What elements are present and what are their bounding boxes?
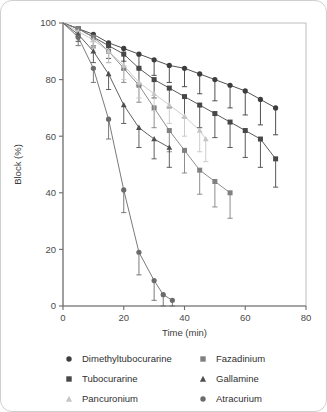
data-point-marker	[136, 250, 141, 255]
y-axis-title: Block (%)	[12, 144, 23, 185]
series-atracurium	[63, 23, 175, 306]
data-point-marker	[182, 148, 187, 153]
legend-item-label: Fazadinium	[216, 354, 265, 364]
x-tick-label: 0	[60, 312, 65, 323]
data-point-marker	[76, 35, 81, 40]
y-tick-label: 100	[40, 17, 56, 28]
data-point-marker	[152, 77, 157, 82]
chart-plot-area: 020406080100020406080Time (min)Block (%)	[1, 1, 327, 346]
series-pancuronium	[63, 23, 209, 162]
data-point-marker	[197, 103, 202, 108]
data-point-marker	[197, 71, 202, 76]
y-tick-label: 40	[45, 187, 56, 198]
legend-item-label: Gallamine	[216, 374, 259, 384]
data-point-marker	[243, 88, 248, 93]
legend-column-left: DimethyltubocurarineTubocurarinePancuron…	[63, 349, 172, 409]
data-point-marker	[152, 278, 157, 283]
legend-item-label: Dimethyltubocurarine	[82, 354, 172, 364]
series-fazadinium	[63, 23, 233, 218]
square-marker-icon	[197, 353, 209, 365]
y-tick-label: 80	[45, 74, 56, 85]
data-point-marker	[182, 94, 187, 99]
data-point-marker	[136, 52, 141, 57]
data-point-marker	[273, 105, 278, 110]
data-point-marker	[170, 298, 175, 303]
data-point-marker	[197, 168, 202, 173]
data-point-marker	[151, 136, 157, 141]
data-point-marker	[212, 111, 217, 116]
data-point-marker	[121, 187, 126, 192]
data-point-marker	[258, 137, 263, 142]
data-point-marker	[136, 66, 141, 71]
data-point-marker	[258, 97, 263, 102]
circle-marker-icon	[197, 393, 209, 405]
series-line	[63, 23, 172, 300]
legend-item-fazadinium[interactable]: Fazadinium	[197, 349, 265, 369]
data-point-marker	[228, 120, 233, 125]
chart-svg: 020406080100020406080Time (min)Block (%)	[1, 1, 327, 346]
x-axis-title: Time (min)	[162, 327, 207, 338]
legend-item-gallamine[interactable]: Gallamine	[197, 369, 265, 389]
figure-panel: 020406080100020406080Time (min)Block (%)…	[0, 0, 327, 412]
data-point-marker	[167, 63, 172, 68]
triangle-marker-icon	[197, 373, 209, 385]
data-point-marker	[182, 113, 188, 118]
y-tick-label: 60	[45, 131, 56, 142]
data-point-marker	[212, 179, 217, 184]
legend-item-atracurium[interactable]: Atracurium	[197, 389, 265, 409]
data-point-marker	[166, 144, 172, 149]
y-tick-label: 0	[51, 300, 56, 311]
data-point-marker	[106, 117, 111, 122]
legend-item-label: Tubocurarine	[82, 374, 138, 384]
square-marker-icon	[63, 373, 75, 385]
data-point-marker	[212, 77, 217, 82]
series-dimethyltubocurarine	[63, 23, 278, 135]
data-point-marker	[182, 66, 187, 71]
data-point-marker	[161, 292, 166, 297]
legend-item-label: Atracurium	[216, 394, 262, 404]
data-point-marker	[106, 43, 111, 48]
legend-item-dimethyltubocurarine[interactable]: Dimethyltubocurarine	[63, 349, 172, 369]
data-point-marker	[121, 102, 127, 107]
data-point-marker	[167, 86, 172, 91]
x-tick-label: 80	[301, 312, 312, 323]
data-point-marker	[167, 128, 172, 133]
data-point-marker	[227, 83, 232, 88]
x-tick-label: 40	[179, 312, 190, 323]
data-point-marker	[152, 57, 157, 62]
data-point-marker	[166, 102, 172, 107]
data-point-marker	[151, 91, 157, 96]
data-point-marker	[273, 156, 278, 161]
legend-item-label: Pancuronium	[82, 394, 138, 404]
data-point-marker	[91, 66, 96, 71]
y-tick-label: 20	[45, 244, 56, 255]
x-tick-label: 60	[240, 312, 251, 323]
x-tick-label: 20	[118, 312, 129, 323]
data-point-marker	[243, 128, 248, 133]
data-point-marker	[228, 190, 233, 195]
legend-item-tubocurarine[interactable]: Tubocurarine	[63, 369, 172, 389]
chart-legend: DimethyltubocurarineTubocurarinePancuron…	[1, 349, 327, 411]
data-point-marker	[121, 52, 126, 57]
legend-item-pancuronium[interactable]: Pancuronium	[63, 389, 172, 409]
data-point-marker	[121, 46, 126, 51]
triangle-marker-icon	[63, 393, 75, 405]
circle-marker-icon	[63, 353, 75, 365]
legend-column-right: FazadiniumGallamineAtracurium	[197, 349, 265, 409]
